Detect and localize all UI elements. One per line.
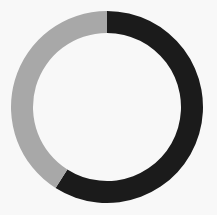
donut-slices	[11, 11, 203, 203]
donut-slice-segment-b	[11, 11, 107, 188]
donut-chart	[0, 0, 217, 215]
donut-slice-segment-a	[56, 11, 203, 203]
